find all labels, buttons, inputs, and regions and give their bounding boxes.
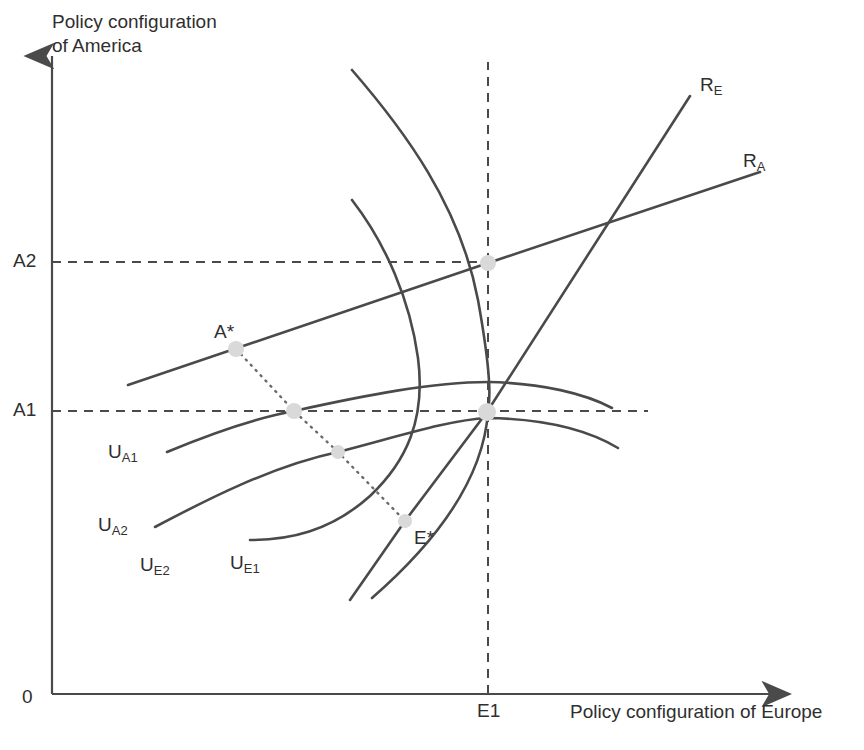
curve-u-e1 [352, 70, 489, 598]
y-axis-title-line2: of America [52, 34, 217, 58]
reaction-function-lines [128, 96, 760, 600]
marker-a-star [228, 341, 244, 357]
label-a-star: A* [214, 321, 234, 343]
curve-u-a1 [167, 382, 612, 452]
label-u-e2-base: U [140, 554, 154, 575]
label-u-a2-sub: A2 [112, 523, 128, 538]
label-u-a1-base: U [108, 441, 122, 462]
curve-u-a2 [155, 418, 618, 527]
label-u-a1: UA1 [108, 441, 138, 463]
tick-label-a2: A2 [13, 250, 36, 272]
tick-label-e1: E1 [477, 700, 500, 722]
label-u-e2: UE2 [140, 554, 170, 576]
label-r-a-base: R [743, 150, 757, 171]
label-u-a2-base: U [98, 514, 112, 535]
europe-indifference-curves [250, 70, 489, 598]
label-r-e-sub: E [714, 83, 723, 98]
marker-e-star [398, 514, 412, 528]
label-r-e-base: R [700, 74, 714, 95]
america-indifference-curves [155, 382, 618, 527]
y-axis-title-line1: Policy configuration [52, 10, 217, 34]
marker-midpoint-upper [286, 403, 302, 419]
contract-curve-dotted [236, 349, 405, 521]
x-axis-title: Policy configuration of Europe [570, 700, 822, 724]
label-u-e1: UE1 [230, 552, 260, 574]
tick-label-a1: A1 [13, 399, 36, 421]
label-u-e1-base: U [230, 552, 244, 573]
label-e-star: E* [414, 527, 434, 549]
marker-midpoint-lower [331, 445, 345, 459]
curve-u-e2 [250, 200, 420, 540]
figure-canvas: Policy configuration of America Policy c… [0, 0, 864, 750]
label-r-a-sub: A [757, 159, 766, 174]
label-u-a2: UA2 [98, 514, 128, 536]
marker-upper-equilibrium [480, 255, 496, 271]
label-u-e2-sub: E2 [154, 563, 170, 578]
label-r-e: RE [700, 74, 722, 96]
y-axis-title: Policy configuration of America [52, 10, 217, 58]
axes [52, 56, 790, 694]
label-r-a: RA [743, 150, 765, 172]
origin-label: 0 [22, 686, 33, 708]
equilibrium-markers [228, 255, 496, 528]
label-u-e1-sub: E1 [244, 561, 260, 576]
marker-lower-equilibrium [478, 403, 496, 421]
label-u-a1-sub: A1 [122, 450, 138, 465]
diagram-svg [0, 0, 864, 750]
